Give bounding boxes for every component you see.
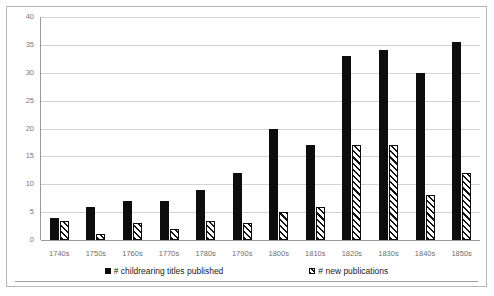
y-axis-tick-label: 30 — [26, 69, 34, 77]
bar-groups — [41, 7, 480, 246]
y-axis-tick-label: 5 — [30, 208, 34, 216]
chart-figure: 0510152025303540 1740s1750s1760s1770s178… — [6, 6, 487, 287]
bar-group — [224, 1, 261, 246]
y-axis-tick-label: 25 — [26, 97, 34, 105]
solid-square-icon — [105, 268, 111, 274]
bar — [342, 56, 351, 240]
bar — [352, 145, 361, 240]
bar — [243, 223, 252, 240]
x-axis-tick-label: 1800s — [260, 246, 297, 262]
bar — [426, 195, 435, 240]
bar — [416, 73, 425, 240]
hatched-square-icon — [309, 268, 315, 274]
bar-group — [78, 1, 115, 246]
plot-area: 0510152025303540 — [7, 7, 486, 246]
legend-label: # new publications — [318, 266, 388, 276]
bar — [206, 221, 215, 241]
bar-group — [443, 1, 480, 246]
x-axis-tick-label: 1780s — [187, 246, 224, 262]
legend-label: # childrearing titles published — [114, 266, 224, 276]
x-axis-tick-label: 1770s — [151, 246, 188, 262]
bar — [462, 173, 471, 240]
bar — [279, 212, 288, 240]
x-axis-tick-label: 1840s — [407, 246, 444, 262]
chart-legend: # childrearing titles published# new pub… — [7, 262, 486, 280]
y-axis-tick-label: 35 — [26, 41, 34, 49]
bar-group — [151, 1, 188, 246]
bar — [452, 42, 461, 240]
bar — [170, 229, 179, 240]
bar-group — [260, 1, 297, 246]
x-axis-tick-label: 1810s — [297, 246, 334, 262]
bar-group — [41, 1, 78, 246]
bar — [60, 221, 69, 241]
x-axis-tick-label: 1820s — [334, 246, 371, 262]
bar — [269, 129, 278, 241]
bar-group — [114, 1, 151, 246]
y-axis-tick-label: 15 — [26, 152, 34, 160]
bar — [160, 201, 169, 240]
bar-group — [334, 1, 371, 246]
y-axis-tick-label: 40 — [26, 13, 34, 21]
x-axis-tick-label: 1750s — [78, 246, 115, 262]
x-axis-tick-label: 1850s — [443, 246, 480, 262]
bar — [316, 207, 325, 240]
x-axis-tick-label: 1760s — [114, 246, 151, 262]
legend-item[interactable]: # new publications — [309, 266, 388, 276]
bar — [233, 173, 242, 240]
x-axis-tick-labels: 1740s1750s1760s1770s1780s1790s1800s1810s… — [41, 246, 480, 262]
y-axis-tick-label: 10 — [26, 180, 34, 188]
bar-group — [187, 1, 224, 246]
bar — [389, 145, 398, 240]
x-axis-tick-label: 1790s — [224, 246, 261, 262]
y-axis-tick-label: 0 — [30, 236, 34, 244]
bar — [379, 50, 388, 240]
bar — [50, 218, 59, 240]
bar-group — [370, 1, 407, 246]
bar — [123, 201, 132, 240]
bar — [86, 207, 95, 240]
bar — [96, 234, 105, 240]
legend-item[interactable]: # childrearing titles published — [105, 266, 224, 276]
legend-separator-rule — [15, 281, 478, 282]
bar — [196, 190, 205, 240]
bar-group — [297, 1, 334, 246]
y-axis-tick-labels: 0510152025303540 — [7, 7, 38, 246]
x-axis-tick-label: 1740s — [41, 246, 78, 262]
bar-group — [407, 1, 444, 246]
bar — [306, 145, 315, 240]
bar — [133, 223, 142, 240]
y-axis-tick-label: 20 — [26, 125, 34, 133]
x-axis-tick-label: 1830s — [370, 246, 407, 262]
